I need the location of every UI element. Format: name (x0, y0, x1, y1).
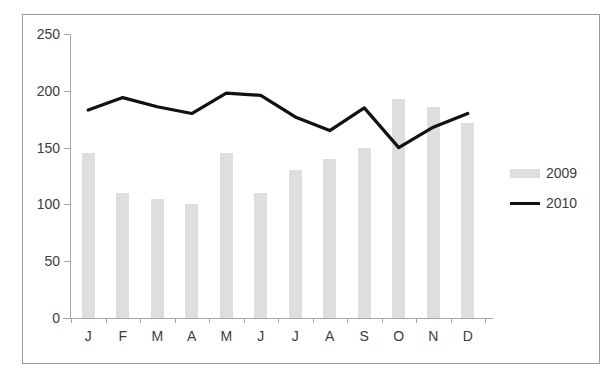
legend-bar-swatch-icon (510, 169, 540, 178)
x-tick-mark (106, 318, 107, 323)
x-tick-mark (347, 318, 348, 323)
y-tick-label: 50 (24, 254, 60, 268)
x-tick-label: M (213, 328, 239, 344)
x-tick-mark (175, 318, 176, 323)
x-tick-label: A (179, 328, 205, 344)
legend-label-2009: 2009 (546, 166, 577, 180)
line-series-2010 (71, 34, 485, 318)
x-tick-label: F (110, 328, 136, 344)
plot-area (71, 34, 485, 318)
legend-item-2010: 2010 (510, 188, 594, 218)
y-tick-label: 250 (24, 27, 60, 41)
y-tick-mark (64, 204, 70, 205)
y-tick-mark (64, 34, 70, 35)
x-tick-label: A (317, 328, 343, 344)
x-tick-label: S (351, 328, 377, 344)
y-tick-label: 0 (24, 311, 60, 325)
x-tick-mark (485, 318, 486, 323)
y-tick-label: 200 (24, 84, 60, 98)
chart-figure: 050100150200250 JFMAMJJASOND 2009 2010 (0, 0, 614, 380)
x-tick-mark (140, 318, 141, 323)
x-tick-mark (451, 318, 452, 323)
x-tick-label: D (455, 328, 481, 344)
x-tick-label: O (386, 328, 412, 344)
y-tick-label: 100 (24, 197, 60, 211)
x-tick-mark (313, 318, 314, 323)
x-tick-label: M (144, 328, 170, 344)
x-tick-mark (244, 318, 245, 323)
legend-item-2009: 2009 (510, 158, 594, 188)
legend-line-swatch-icon (510, 199, 540, 208)
x-tick-mark (71, 318, 72, 323)
x-tick-label: J (75, 328, 101, 344)
x-tick-label: J (282, 328, 308, 344)
y-tick-mark (64, 318, 70, 319)
y-tick-mark (64, 148, 70, 149)
x-tick-label: J (248, 328, 274, 344)
legend-label-2010: 2010 (546, 196, 577, 210)
x-tick-mark (416, 318, 417, 323)
x-tick-mark (278, 318, 279, 323)
x-tick-mark (382, 318, 383, 323)
line-path (88, 93, 468, 148)
x-tick-mark (209, 318, 210, 323)
x-tick-label: N (420, 328, 446, 344)
y-tick-label: 150 (24, 141, 60, 155)
y-tick-mark (64, 261, 70, 262)
y-tick-mark (64, 91, 70, 92)
chart-legend: 2009 2010 (510, 158, 594, 218)
